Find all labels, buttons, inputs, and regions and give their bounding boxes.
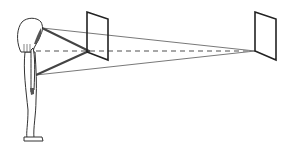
- person-arm: [31, 48, 35, 92]
- person-figure: [18, 18, 43, 141]
- diagram-canvas: [0, 0, 294, 153]
- near-panel: [87, 12, 108, 60]
- person-foot: [24, 137, 43, 141]
- far-panel: [255, 12, 276, 60]
